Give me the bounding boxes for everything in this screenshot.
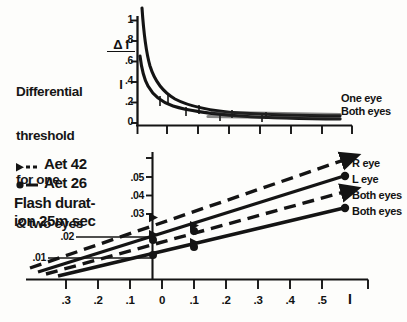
top-panel-curve-one-eye [142, 8, 340, 119]
chart-vector-layer [0, 0, 407, 322]
bottom-series-both-eyes-solid [58, 204, 349, 276]
legend-marker-aet-42 [16, 163, 38, 171]
bottom-series-l-eye [38, 172, 349, 272]
figure-canvas: Differential threshold for one & two eye… [0, 0, 407, 322]
bottom-series-r-eye [30, 160, 344, 268]
legend-marker-aet-26 [16, 181, 38, 188]
